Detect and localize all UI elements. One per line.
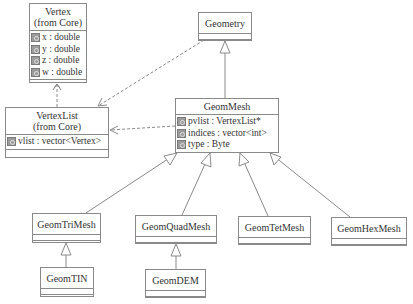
attribute-row: type : Byte: [176, 139, 278, 151]
attribute-row: z : double: [30, 55, 86, 67]
class-name: GeomDEM: [146, 275, 205, 286]
class-geomtetmesh[interactable]: GeomTetMesh: [238, 216, 311, 245]
class-name: GeomTetMesh: [239, 222, 310, 233]
attribute-text: indices : vector<int>: [188, 128, 267, 140]
class-name: Geometry: [199, 18, 251, 29]
class-header: GeomDEM: [146, 270, 205, 291]
attribute-text: x : double: [42, 32, 80, 44]
dep-geommesh-vertexlist: [110, 126, 175, 130]
protected-attribute-icon: [177, 117, 186, 126]
class-header: GeomMesh: [176, 99, 278, 115]
attribute-row: indices : vector<int>: [176, 128, 278, 140]
class-header: GeomTetMesh: [239, 217, 310, 238]
operation-list: [136, 243, 216, 248]
class-header: GeomTriMesh: [33, 214, 100, 235]
attribute-list: vlist : vector<Vertex>: [6, 135, 108, 150]
class-geomquadmesh[interactable]: GeomQuadMesh: [135, 215, 217, 244]
class-header: Geometry: [199, 13, 251, 34]
attribute-text: w : double: [42, 67, 82, 79]
class-vertex[interactable]: Vertex (from Core) x : double y : double…: [29, 3, 87, 83]
gen-geomhexmesh-geommesh: [270, 153, 350, 217]
operation-list: [199, 40, 251, 45]
class-geomtin[interactable]: GeomTIN: [40, 267, 94, 297]
class-geomdem[interactable]: GeomDEM: [145, 269, 206, 298]
attribute-text: y : double: [42, 44, 80, 56]
attribute-text: z : double: [42, 55, 79, 67]
class-geomhexmesh[interactable]: GeomHexMesh: [331, 217, 407, 246]
attribute-list: x : double y : double z : double w : dou…: [30, 31, 86, 80]
protected-attribute-icon: [177, 129, 186, 138]
operation-list: [332, 245, 406, 250]
public-attribute-icon: [31, 45, 40, 54]
attribute-row: vlist : vector<Vertex>: [6, 136, 108, 148]
attribute-row: pvlist : VertexList*: [176, 116, 278, 128]
operation-list: [146, 297, 205, 302]
attribute-text: pvlist : VertexList*: [188, 116, 261, 128]
class-name: Vertex: [30, 6, 86, 17]
operation-list: [41, 295, 93, 300]
class-name: GeomQuadMesh: [136, 221, 216, 232]
attribute-row: x : double: [30, 32, 86, 44]
protected-attribute-icon: [7, 137, 16, 146]
attribute-list: pvlist : VertexList* indices : vector<in…: [176, 115, 278, 153]
public-attribute-icon: [31, 33, 40, 42]
class-name: GeomHexMesh: [332, 223, 406, 234]
class-header: GeomHexMesh: [332, 218, 406, 239]
attribute-row: w : double: [30, 67, 86, 79]
class-geommesh[interactable]: GeomMesh pvlist : VertexList* indices : …: [175, 98, 279, 153]
class-geometry[interactable]: Geometry: [198, 12, 252, 41]
class-name: VertexList: [6, 110, 108, 121]
attribute-text: type : Byte: [188, 139, 230, 151]
class-name: GeomMesh: [176, 101, 278, 112]
operation-list: [176, 153, 278, 158]
protected-attribute-icon: [177, 140, 186, 149]
class-header: GeomTIN: [41, 268, 93, 289]
class-vertexlist[interactable]: VertexList (from Core) vlist : vector<Ve…: [5, 107, 109, 158]
attribute-text: vlist : vector<Vertex>: [18, 136, 101, 148]
public-attribute-icon: [31, 68, 40, 77]
operation-list: [33, 241, 100, 246]
class-geomtrimesh[interactable]: GeomTriMesh: [32, 213, 101, 243]
dep-geometry-vertexlist: [98, 40, 204, 106]
class-stereotype: (from Core): [6, 121, 108, 132]
attribute-row: y : double: [30, 44, 86, 56]
class-header: Vertex (from Core): [30, 4, 86, 31]
gen-geomtrimesh-geommesh: [86, 153, 177, 213]
operation-list: [239, 244, 310, 249]
operation-list: [6, 150, 108, 155]
class-header: VertexList (from Core): [6, 108, 108, 135]
class-name: GeomTIN: [41, 273, 93, 284]
class-header: GeomQuadMesh: [136, 216, 216, 237]
public-attribute-icon: [31, 56, 40, 65]
class-name: GeomTriMesh: [33, 219, 100, 230]
operation-list: [30, 80, 86, 85]
class-stereotype: (from Core): [30, 17, 86, 28]
